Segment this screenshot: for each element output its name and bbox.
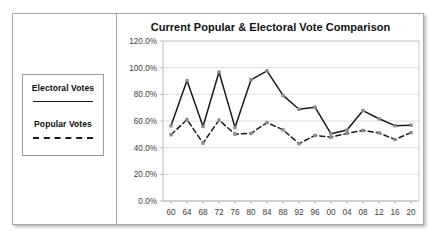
series-markers	[169, 69, 412, 145]
legend-label-popular-votes: Popular Votes	[23, 119, 103, 130]
legend-box: Electoral Votes Popular Votes	[22, 74, 104, 156]
x-axis-tick-label: 20	[406, 208, 416, 217]
x-axis-ticks: 60646872768084889296000408121620	[166, 201, 416, 217]
x-axis-tick-label: 12	[374, 208, 384, 217]
data-point-marker	[201, 125, 204, 128]
x-axis-tick-label: 76	[230, 208, 240, 217]
data-point-marker	[185, 118, 188, 121]
data-point-marker	[281, 94, 284, 97]
x-axis-tick-label: 96	[310, 208, 320, 217]
chart-card: Electoral Votes Popular Votes Current Po…	[12, 13, 424, 225]
y-axis-tick-label: 60.0%	[134, 117, 157, 126]
x-axis-tick-label: 92	[294, 208, 304, 217]
y-axis-tick-label: 40.0%	[134, 144, 157, 153]
x-axis-tick-label: 84	[262, 208, 272, 217]
data-point-marker	[313, 105, 316, 108]
legend-swatch-dashed-line-icon	[33, 137, 93, 139]
x-axis-tick-label: 68	[198, 208, 208, 217]
y-axis-tick-label: 80.0%	[134, 90, 157, 99]
series-lines	[171, 71, 411, 144]
data-point-marker	[185, 79, 188, 82]
series-line-popular-votes	[171, 120, 411, 144]
data-point-marker	[217, 70, 220, 73]
x-axis-tick-label: 60	[166, 208, 176, 217]
y-axis-tick-label: 20.0%	[134, 170, 157, 179]
legend-item-electoral-votes: Electoral Votes	[23, 83, 103, 102]
legend-swatch-solid-line-icon	[33, 101, 93, 102]
y-axis-tick-label: 120.0%	[129, 37, 157, 46]
legend-item-popular-votes: Popular Votes	[23, 119, 103, 139]
data-point-marker	[249, 78, 252, 81]
y-axis-tick-label: 0.0%	[138, 197, 157, 206]
data-point-marker	[313, 134, 316, 137]
chart-screenshot: Electoral Votes Popular Votes Current Po…	[0, 0, 443, 251]
data-point-marker	[201, 141, 204, 144]
data-point-marker	[345, 128, 348, 131]
data-point-marker	[409, 123, 412, 126]
x-axis-tick-label: 00	[326, 208, 336, 217]
data-point-marker	[169, 133, 172, 136]
data-point-marker	[281, 128, 284, 131]
data-point-marker	[409, 131, 412, 134]
data-point-marker	[217, 118, 220, 121]
chart-title: Current Popular & Electoral Vote Compari…	[117, 21, 424, 33]
series-line-electoral-votes	[171, 71, 411, 134]
data-point-marker	[233, 126, 236, 129]
x-axis-tick-label: 16	[390, 208, 400, 217]
data-point-marker	[297, 142, 300, 145]
data-point-marker	[265, 121, 268, 124]
y-axis-ticks: 0.0%20.0%40.0%60.0%80.0%100.0%120.0%	[129, 37, 163, 206]
data-point-marker	[297, 108, 300, 111]
data-point-marker	[329, 132, 332, 135]
x-axis-tick-label: 80	[246, 208, 256, 217]
data-point-marker	[345, 132, 348, 135]
x-axis-tick-label: 88	[278, 208, 288, 217]
data-point-marker	[169, 124, 172, 127]
x-axis-tick-label: 04	[342, 208, 352, 217]
legend-pane: Electoral Votes Popular Votes	[13, 14, 116, 224]
x-axis-tick-label: 08	[358, 208, 368, 217]
data-point-marker	[377, 131, 380, 134]
data-point-marker	[361, 109, 364, 112]
line-chart-plot: 0.0%20.0%40.0%60.0%80.0%100.0%120.0% 606…	[117, 36, 424, 224]
chart-pane: Current Popular & Electoral Vote Compari…	[117, 14, 424, 224]
x-axis-tick-label: 72	[214, 208, 224, 217]
data-point-marker	[361, 129, 364, 132]
data-point-marker	[377, 117, 380, 120]
x-axis-tick-label: 64	[182, 208, 192, 217]
legend-label-electoral-votes: Electoral Votes	[23, 83, 103, 94]
y-axis-tick-label: 100.0%	[129, 64, 157, 73]
data-point-marker	[265, 69, 268, 72]
data-point-marker	[233, 133, 236, 136]
data-point-marker	[329, 135, 332, 138]
data-point-marker	[393, 138, 396, 141]
data-point-marker	[393, 124, 396, 127]
data-point-marker	[249, 132, 252, 135]
